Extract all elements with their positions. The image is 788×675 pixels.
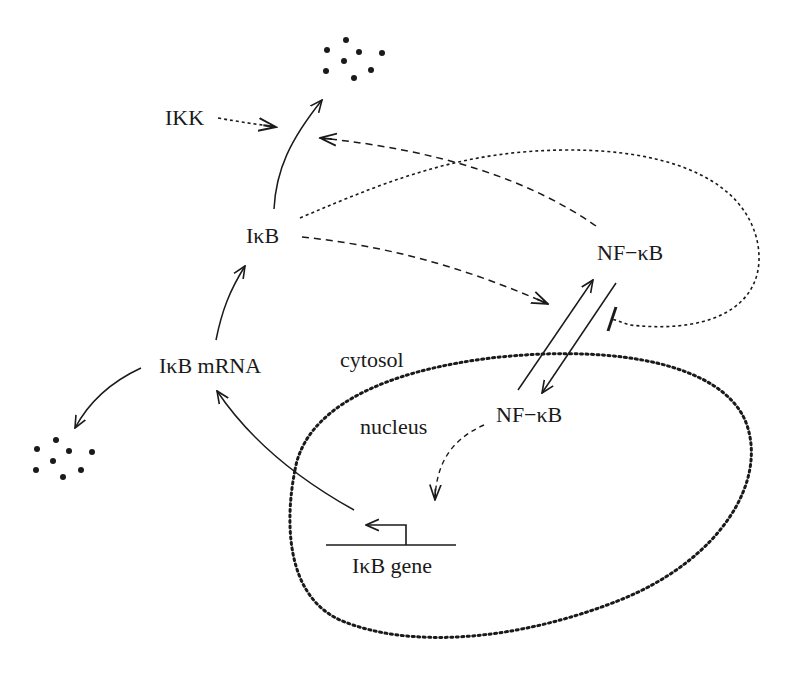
degradation-dots-bottom — [33, 437, 95, 480]
edge-nfkb-degradation — [320, 138, 596, 226]
label-cytosol: cytosol — [340, 349, 404, 371]
promoter-arrow — [366, 525, 406, 545]
edge-ikb-inhibition — [300, 150, 759, 327]
edge-ikb-export — [302, 237, 548, 304]
node-ikb: IκB — [246, 225, 279, 247]
edge-mrna-ikb — [216, 266, 245, 340]
edge-ikk-activation — [218, 118, 276, 127]
edge-mrna-degradation — [75, 368, 141, 428]
node-ikb-mrna: IκB mRNA — [159, 355, 261, 377]
label-nucleus: nucleus — [360, 416, 427, 438]
node-ikk: IKK — [165, 107, 204, 129]
node-nfkb-nucleus: NF−κB — [496, 404, 562, 426]
node-nfkb-cytosol: NF−κB — [597, 242, 663, 264]
nucleus-membrane — [290, 354, 751, 638]
edge-nfkb-gene-activation — [435, 425, 484, 500]
diagram-canvas: IKK IκB NF−κB IκB mRNA cytosol nucleus N… — [0, 0, 788, 675]
edge-ikb-degradation — [274, 100, 322, 209]
node-ikb-gene: IκB gene — [352, 555, 432, 577]
degradation-dots-top — [323, 37, 385, 81]
